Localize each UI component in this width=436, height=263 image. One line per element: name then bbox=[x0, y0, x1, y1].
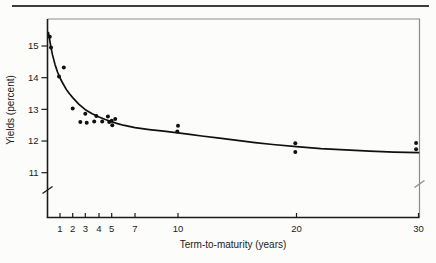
data-point bbox=[110, 119, 114, 123]
data-point bbox=[83, 112, 87, 116]
data-point bbox=[78, 120, 82, 124]
x-tick-label: 5 bbox=[109, 223, 114, 234]
x-tick-label: 10 bbox=[173, 223, 184, 234]
yield-curve-chart: 1514131211123457102030 Yields (percent) … bbox=[0, 0, 436, 263]
yield-curve bbox=[49, 33, 419, 153]
data-point bbox=[94, 114, 98, 118]
data-point bbox=[48, 35, 52, 39]
data-point bbox=[57, 74, 61, 78]
x-tick-label: 20 bbox=[291, 223, 302, 234]
data-point bbox=[176, 124, 180, 128]
data-point bbox=[85, 121, 89, 125]
data-point bbox=[92, 119, 96, 123]
x-tick-label: 7 bbox=[132, 223, 137, 234]
figure-page: 1514131211123457102030 Yields (percent) … bbox=[0, 0, 436, 263]
data-point bbox=[110, 123, 114, 127]
x-tick-label: 4 bbox=[96, 223, 101, 234]
y-tick-label: 13 bbox=[28, 104, 39, 115]
y-tick-label: 11 bbox=[29, 167, 39, 178]
data-point bbox=[293, 150, 297, 154]
data-point bbox=[62, 66, 66, 70]
data-point bbox=[414, 141, 418, 145]
data-point bbox=[113, 117, 117, 121]
chart-generated-layer: 1514131211123457102030 bbox=[28, 19, 425, 234]
x-tick-label: 30 bbox=[413, 223, 424, 234]
x-axis-label: Term-to-maturity (years) bbox=[180, 239, 287, 250]
data-point bbox=[100, 119, 104, 123]
data-point bbox=[175, 130, 179, 134]
y-axis-label: Yields (percent) bbox=[5, 75, 16, 145]
y-tick-label: 15 bbox=[28, 40, 39, 51]
data-point bbox=[293, 141, 297, 145]
y-tick-label: 14 bbox=[28, 72, 39, 83]
x-tick-label: 1 bbox=[57, 223, 62, 234]
data-point bbox=[414, 147, 418, 151]
data-point bbox=[71, 106, 75, 110]
y-tick-label: 12 bbox=[28, 135, 39, 146]
data-point bbox=[106, 115, 110, 119]
top-rule bbox=[12, 5, 429, 7]
data-point bbox=[49, 46, 53, 50]
x-tick-label: 2 bbox=[70, 223, 75, 234]
x-tick-label: 3 bbox=[83, 223, 88, 234]
